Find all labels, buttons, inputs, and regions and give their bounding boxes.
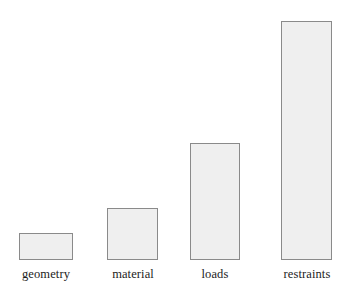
bar-restraints: [281, 21, 332, 260]
bar-chart: geometry material loads restraints: [0, 0, 350, 301]
x-axis-label-material: material: [98, 268, 168, 281]
bar-material: [107, 208, 158, 260]
bar-geometry: [19, 233, 73, 260]
bar-loads: [190, 143, 240, 260]
x-axis-label-geometry: geometry: [10, 268, 82, 281]
plot-area: geometry material loads restraints: [0, 0, 350, 301]
x-axis-label-loads: loads: [184, 268, 246, 281]
x-axis-label-restraints: restraints: [270, 268, 344, 281]
